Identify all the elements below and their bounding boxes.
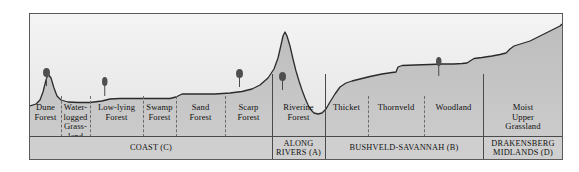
- region-band: COAST (C)ALONGRIVERS (A)BUSHVELD-SAVANNA…: [30, 136, 562, 159]
- zone-label-woodland: Woodland: [424, 103, 483, 113]
- zone-label-scarp-forest: ScarpForest: [225, 103, 272, 122]
- zone-label-moist-upper-grassland: MoistUpperGrassland: [483, 103, 563, 132]
- zone-label-low-lying-forest: Low-lyingForest: [90, 103, 143, 122]
- zone-label-dune-forest: DuneForest: [30, 103, 61, 122]
- region-separator-drakensberg-midlands: [483, 137, 484, 159]
- zone-label-thornveld: Thornveld: [368, 103, 424, 113]
- tree-dune-forest-icon: [43, 68, 50, 86]
- vegetation-profile-figure: DuneForestWater-loggedGrass-landLow-lyin…: [29, 13, 563, 160]
- tree-low-lying-icon: [102, 77, 108, 96]
- region-cell-drakensberg-midlands: DRAKENSBERGMIDLANDS (D): [483, 137, 563, 159]
- zone-label-riverine-forest: RiverineForest: [272, 103, 325, 122]
- zone-label-thicket: Thicket: [325, 103, 368, 113]
- region-separator-bushveld-savannah: [325, 137, 326, 159]
- zone-label-sand-forest: SandForest: [176, 103, 225, 122]
- region-cell-coast: COAST (C): [30, 137, 272, 159]
- region-separator-along-rivers: [272, 137, 273, 159]
- tree-scarp-left-icon: [236, 69, 243, 87]
- region-cell-along-rivers: ALONGRIVERS (A): [272, 137, 325, 159]
- tree-woodland-icon: [436, 57, 442, 76]
- region-cell-bushveld-savannah: BUSHVELD-SAVANNAH (B): [325, 137, 483, 159]
- zone-label-swamp-forest: SwampForest: [143, 103, 176, 122]
- tree-riverine-icon: [279, 72, 286, 90]
